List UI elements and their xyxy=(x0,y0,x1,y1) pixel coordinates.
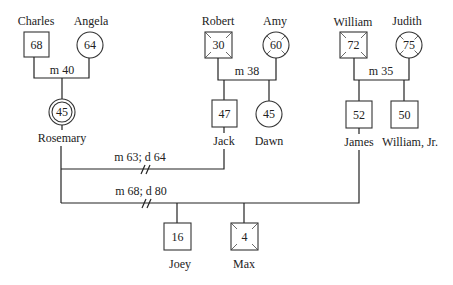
charles-age: 68 xyxy=(31,38,43,52)
angela-age: 64 xyxy=(84,38,96,52)
rosemary-age: 45 xyxy=(56,105,68,119)
max-age: 4 xyxy=(242,230,248,244)
dawn-age: 45 xyxy=(263,107,275,121)
william-age: 72 xyxy=(348,38,360,52)
william-judith-marriage-label: m 35 xyxy=(369,64,393,78)
rosemary-name: Rosemary xyxy=(38,131,87,145)
charles-name: Charles xyxy=(18,14,55,28)
judith-name: Judith xyxy=(392,14,421,28)
rosemary-james-marriage-label: m 68; d 80 xyxy=(115,184,167,198)
jack-age: 47 xyxy=(219,107,231,121)
james-name: James xyxy=(344,135,374,149)
angela-name: Angela xyxy=(74,14,109,28)
amy-age: 60 xyxy=(270,38,282,52)
max-name: Max xyxy=(233,257,255,271)
william-jr-name: William, Jr. xyxy=(382,135,438,149)
amy-name: Amy xyxy=(263,14,287,28)
dawn-name: Dawn xyxy=(255,134,284,148)
genogram: Charles 68 Angela 64 m 40 45 Rosemary Ro… xyxy=(0,0,453,285)
joey-name: Joey xyxy=(169,257,191,271)
william-name: William xyxy=(334,15,374,29)
robert-age: 30 xyxy=(213,38,225,52)
jack-name: Jack xyxy=(213,134,234,148)
rosemary-james-marriage-line xyxy=(61,150,359,203)
robert-name: Robert xyxy=(202,14,235,28)
joey-age: 16 xyxy=(172,230,184,244)
robert-amy-marriage-label: m 38 xyxy=(235,64,259,78)
judith-age: 75 xyxy=(403,38,415,52)
rosemary-jack-marriage-label: m 63; d 64 xyxy=(114,150,166,164)
charles-angela-marriage-label: m 40 xyxy=(50,63,74,77)
james-age: 52 xyxy=(353,108,365,122)
william-jr-age: 50 xyxy=(399,108,411,122)
